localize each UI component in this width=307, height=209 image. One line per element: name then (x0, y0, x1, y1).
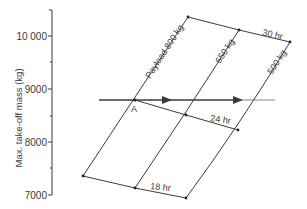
tick-label-8000: 8000 (25, 137, 48, 148)
label-18hr: 18 hr (150, 181, 171, 193)
endurance-lines (83, 17, 290, 198)
point-a (133, 98, 136, 101)
y-axis-title: Max. take-off mass (kg) (13, 68, 24, 167)
point (82, 175, 85, 178)
tick-label-7000: 7000 (25, 190, 48, 201)
point (187, 16, 190, 19)
arrow-right-icon (233, 96, 243, 104)
label-payload-800kg: Payload 800 kg (143, 23, 185, 80)
point (185, 197, 188, 200)
point (237, 129, 240, 132)
label-650kg: 650 kg (213, 37, 236, 65)
point (134, 187, 137, 190)
point (238, 29, 241, 32)
point (289, 41, 292, 44)
tick-label-10000: 10 000 (16, 31, 47, 42)
diagram-canvas: 10 000 9000 8000 7000 Max. take-off mass… (0, 0, 307, 209)
payload-lines (83, 17, 290, 198)
intersection-points (82, 16, 292, 200)
arrow-right-icon (162, 96, 172, 104)
label-30hr: 30 hr (262, 27, 284, 41)
reference-line (99, 96, 275, 104)
label-point-a: A (131, 104, 137, 114)
label-24hr: 24 hr (210, 113, 232, 126)
tick-label-9000: 9000 (25, 84, 48, 95)
y-axis (48, 10, 52, 195)
label-500kg: 500 kg (265, 48, 288, 76)
point (185, 114, 188, 117)
